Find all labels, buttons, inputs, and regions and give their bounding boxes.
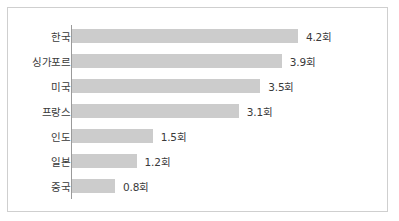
chart-frame: 한국4.2회싱가포르3.9회미국3.5회프랑스3.1회인도1.5회일본1.2회중… xyxy=(7,7,388,212)
bar-fill xyxy=(72,104,239,118)
bar-category-label: 중국 xyxy=(0,179,71,194)
bar-track: 3.5회 xyxy=(72,79,298,93)
bar-category-label: 미국 xyxy=(0,79,71,94)
bar-track: 1.2회 xyxy=(72,154,298,168)
bar-fill xyxy=(72,79,260,93)
bar-track: 1.5회 xyxy=(72,129,298,143)
bar-category-label: 한국 xyxy=(0,29,71,44)
bar-value-label: 4.2회 xyxy=(306,29,332,44)
bar-row: 일본1.2회 xyxy=(8,154,389,168)
bar-fill xyxy=(72,154,137,168)
bar-category-label: 일본 xyxy=(0,154,71,169)
bar-track: 0.8회 xyxy=(72,179,298,193)
bar-category-label: 싱가포르 xyxy=(0,54,71,69)
plot-area: 한국4.2회싱가포르3.9회미국3.5회프랑스3.1회인도1.5회일본1.2회중… xyxy=(8,8,389,213)
bar-fill xyxy=(72,54,282,68)
bar-track: 3.1회 xyxy=(72,104,298,118)
bar-value-label: 3.9회 xyxy=(290,54,316,69)
bar-row: 미국3.5회 xyxy=(8,79,389,93)
bar-row: 싱가포르3.9회 xyxy=(8,54,389,68)
bar-value-label: 1.5회 xyxy=(161,129,187,144)
bar-fill xyxy=(72,29,298,43)
bar-track: 4.2회 xyxy=(72,29,298,43)
bar-fill xyxy=(72,129,153,143)
bar-track: 3.9회 xyxy=(72,54,298,68)
bar-value-label: 3.1회 xyxy=(247,104,273,119)
bar-row: 프랑스3.1회 xyxy=(8,104,389,118)
bar-value-label: 1.2회 xyxy=(145,154,171,169)
bar-row: 중국0.8회 xyxy=(8,179,389,193)
bar-value-label: 3.5회 xyxy=(268,79,294,94)
bar-row: 한국4.2회 xyxy=(8,29,389,43)
bar-category-label: 프랑스 xyxy=(0,104,71,119)
horizontal-bar-chart: 한국4.2회싱가포르3.9회미국3.5회프랑스3.1회인도1.5회일본1.2회중… xyxy=(0,0,399,221)
bar-fill xyxy=(72,179,115,193)
bar-row: 인도1.5회 xyxy=(8,129,389,143)
bar-value-label: 0.8회 xyxy=(123,179,149,194)
bar-category-label: 인도 xyxy=(0,129,71,144)
